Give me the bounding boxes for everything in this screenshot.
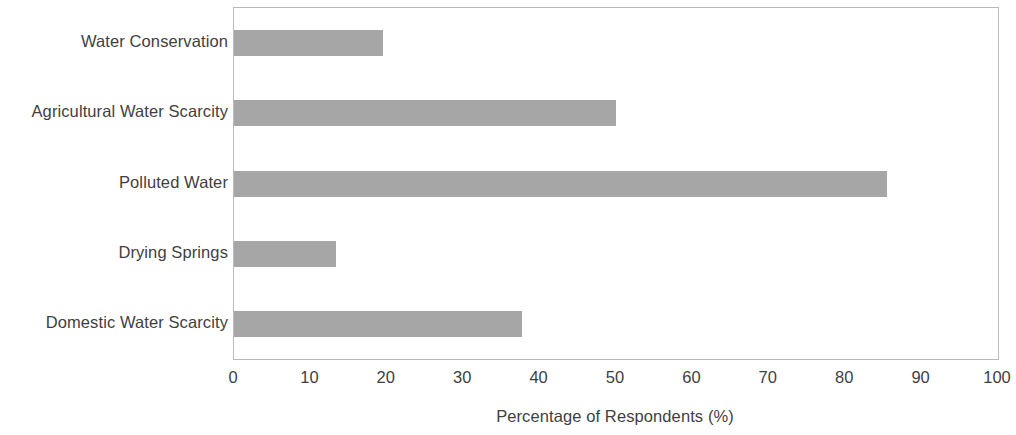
x-axis-tick-label: 60 xyxy=(651,368,731,388)
bar xyxy=(234,100,616,126)
bar-chart: Water ConservationAgricultural Water Sca… xyxy=(0,0,1016,435)
x-axis-tick-label: 0 xyxy=(193,368,273,388)
x-axis-tick-label: 80 xyxy=(804,368,884,388)
y-axis-label: Agricultural Water Scarcity xyxy=(0,103,228,120)
x-axis-tick-label: 50 xyxy=(575,368,655,388)
bar xyxy=(234,241,336,267)
x-axis-tick-labels: 0102030405060708090100 xyxy=(0,368,1016,392)
bar xyxy=(234,311,522,337)
x-axis-tick-label: 40 xyxy=(499,368,579,388)
y-axis-label: Water Conservation xyxy=(0,33,228,50)
plot-area xyxy=(233,7,999,360)
x-axis-tick-label: 30 xyxy=(422,368,502,388)
bars-layer xyxy=(234,8,998,359)
y-axis-category-labels: Water ConservationAgricultural Water Sca… xyxy=(0,7,228,358)
x-axis-tick-label: 70 xyxy=(728,368,808,388)
bar xyxy=(234,30,383,56)
bar xyxy=(234,171,887,197)
y-axis-label: Drying Springs xyxy=(0,244,228,261)
x-axis-tick-label: 100 xyxy=(957,368,1016,388)
x-axis-tick-label: 90 xyxy=(881,368,961,388)
x-axis-title: Percentage of Respondents (%) xyxy=(233,407,997,426)
x-axis-tick-label: 10 xyxy=(269,368,349,388)
y-axis-label: Polluted Water xyxy=(0,174,228,191)
x-axis-tick-label: 20 xyxy=(346,368,426,388)
y-axis-label: Domestic Water Scarcity xyxy=(0,314,228,331)
